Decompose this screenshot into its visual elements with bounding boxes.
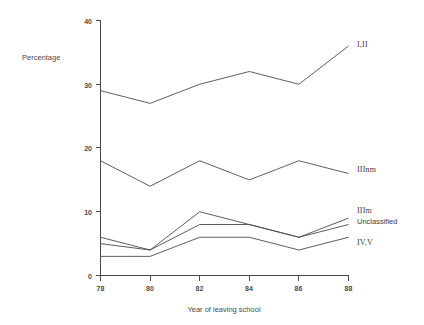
x-axis-title: Year of leaving school <box>187 305 260 314</box>
series-line-i-ii <box>101 46 349 103</box>
line-chart-plot: 0 10 20 30 40 78 80 82 84 86 88 Percenta… <box>0 0 424 325</box>
x-tick-label-80: 80 <box>146 285 154 292</box>
y-tick-label-30: 30 <box>84 82 92 89</box>
x-tick-label-82: 82 <box>196 285 204 292</box>
series-label-iiinm: IIInm <box>357 165 377 174</box>
series-label-iv-v: IV,V <box>357 238 373 247</box>
series-line-iiim <box>101 212 349 250</box>
y-tick-label-10: 10 <box>84 209 92 216</box>
y-axis-title: Percentage <box>22 53 60 62</box>
chart-container: 0 10 20 30 40 78 80 82 84 86 88 Percenta… <box>0 0 424 325</box>
series-lines-group <box>101 46 349 256</box>
series-label-i-ii: I,II <box>357 40 368 49</box>
x-tick-label-78: 78 <box>97 285 105 292</box>
series-line-iiinm <box>101 161 349 187</box>
x-tick-label-88: 88 <box>345 285 353 292</box>
x-axis-ticks <box>101 276 349 281</box>
y-tick-label-20: 20 <box>84 145 92 152</box>
y-axis-ticks <box>96 21 101 276</box>
x-tick-label-86: 86 <box>295 285 303 292</box>
series-label-unclassified: Unclassified <box>357 217 397 226</box>
x-tick-label-84: 84 <box>245 285 253 292</box>
series-label-iiim: IIIm <box>357 206 373 215</box>
y-tick-label-0: 0 <box>88 273 92 280</box>
y-tick-label-40: 40 <box>84 18 92 25</box>
